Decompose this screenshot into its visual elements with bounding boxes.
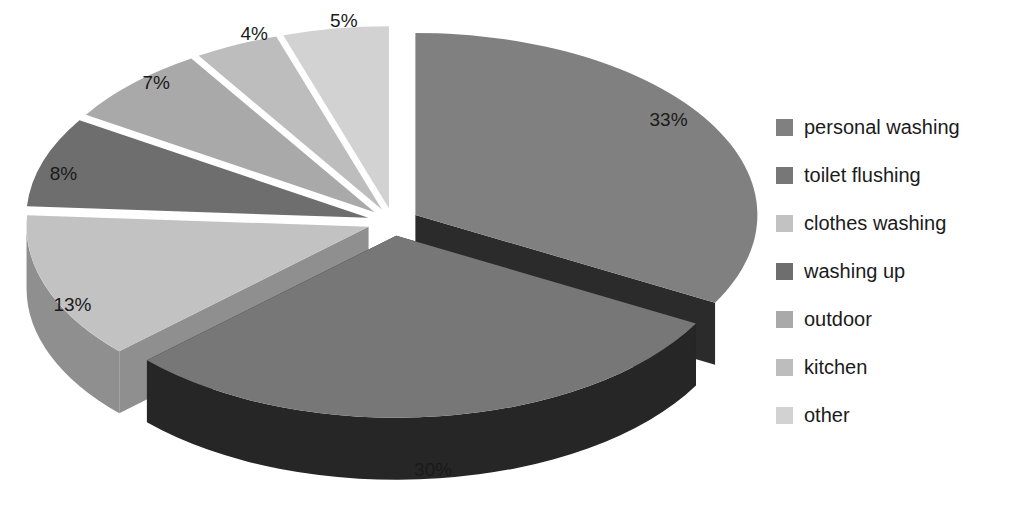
legend-item[interactable]: clothes washing [776,199,1016,247]
pie-slice-layer [27,26,758,479]
legend-swatch-icon [776,215,793,232]
pie-slice-data-label: 13% [53,294,91,315]
legend-item[interactable]: toilet flushing [776,151,1016,199]
pie-slice-data-label: 7% [143,72,171,93]
pie-chart-figure: 33%30%13%8%7%4%5% personal washingtoilet… [0,0,1021,532]
legend-item-label: other [804,405,850,425]
legend-item[interactable]: washing up [776,247,1016,295]
chart-legend: personal washingtoilet flushingclothes w… [776,103,1016,439]
legend-swatch-icon [776,311,793,328]
pie-slice-data-label: 4% [240,23,268,44]
legend-swatch-icon [776,119,793,136]
legend-item-label: kitchen [804,357,867,377]
pie-slice-data-label: 30% [414,459,452,480]
legend-item-label: outdoor [804,309,872,329]
pie-slice-data-label: 5% [330,10,358,31]
pie-plot-area: 33%30%13%8%7%4%5% [0,0,760,532]
legend-item-label: clothes washing [804,213,946,233]
pie-svg: 33%30%13%8%7%4%5% [0,0,760,532]
legend-swatch-icon [776,359,793,376]
legend-item[interactable]: outdoor [776,295,1016,343]
legend-item-label: personal washing [804,117,960,137]
legend-item-label: washing up [804,261,905,281]
pie-slice-data-label: 33% [650,109,688,130]
legend-item[interactable]: other [776,391,1016,439]
legend-swatch-icon [776,263,793,280]
legend-item[interactable]: personal washing [776,103,1016,151]
legend-item-label: toilet flushing [804,165,921,185]
legend-item[interactable]: kitchen [776,343,1016,391]
legend-swatch-icon [776,167,793,184]
legend-swatch-icon [776,407,793,424]
pie-slice-data-label: 8% [50,163,78,184]
